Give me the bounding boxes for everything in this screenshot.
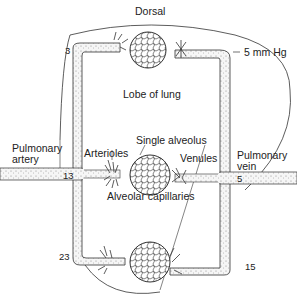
dorsal-label: Dorsal	[135, 6, 165, 16]
arterioles-label: Arterioles	[84, 148, 128, 158]
single-alveolus-label: Single alveolus	[136, 135, 207, 145]
pressure-unit-label: 5 mm Hg	[244, 47, 287, 57]
capillaries-label: Alveolar capillaries	[107, 191, 195, 201]
pressure-bottom-right: 15	[245, 262, 256, 272]
lobe-label: Lobe of lung	[123, 89, 181, 99]
pressure-mid-left: 13	[63, 171, 74, 181]
pulmonary-vein-label-2: vein	[237, 161, 256, 171]
pressure-top-left: 3	[65, 46, 70, 56]
alveolus-middle	[130, 155, 170, 195]
alveolus-bottom	[130, 242, 170, 282]
pressure-bottom-left: 23	[59, 252, 70, 262]
pulmonary-artery-label-1: Pulmonary	[12, 143, 62, 153]
pulmonary-vein-label-1: Pulmonary	[237, 150, 287, 160]
alveolus-top	[130, 32, 166, 68]
pulmonary-artery-label-2: artery	[12, 154, 39, 164]
pressure-mid-right: 5	[237, 174, 242, 184]
venules-label: Venules	[180, 153, 217, 163]
